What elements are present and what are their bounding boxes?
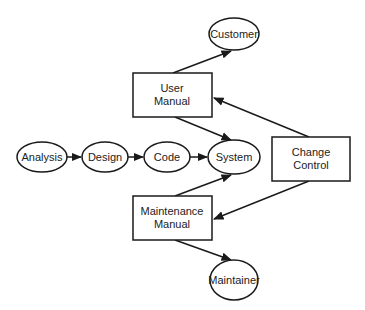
node-code: Code xyxy=(144,142,190,172)
user-manual-label-line2: Manual xyxy=(154,95,190,107)
code-label: Code xyxy=(154,151,180,163)
edge-maintenancemanual-system xyxy=(175,175,231,196)
maintenance-manual-label-line1: Maintenance xyxy=(141,205,204,217)
user-manual-label-line1: User xyxy=(160,82,184,94)
edge-changecontrol-maintenancemanual xyxy=(214,181,309,219)
change-control-label-line2: Control xyxy=(293,159,328,171)
node-maintainer: Maintainer xyxy=(208,260,260,300)
analysis-label: Analysis xyxy=(22,151,63,163)
edge-maintenancemanual-maintainer xyxy=(175,240,231,260)
node-analysis: Analysis xyxy=(17,142,67,172)
node-system: System xyxy=(208,140,260,174)
change-control-label-line1: Change xyxy=(292,146,331,158)
design-label: Design xyxy=(88,151,122,163)
edge-usermanual-customer xyxy=(173,51,231,73)
maintenance-manual-label-line2: Manual xyxy=(154,218,190,230)
node-maintenance-manual: Maintenance Manual xyxy=(133,196,212,240)
system-label: System xyxy=(216,151,253,163)
node-user-manual: User Manual xyxy=(133,73,212,117)
node-change-control: Change Control xyxy=(272,137,350,181)
customer-label: Customer xyxy=(210,28,258,40)
edge-usermanual-system xyxy=(175,117,231,140)
maintainer-label: Maintainer xyxy=(208,274,260,286)
node-design: Design xyxy=(82,142,128,172)
edge-changecontrol-usermanual xyxy=(214,98,309,137)
node-customer: Customer xyxy=(209,18,259,50)
software-process-diagram: Analysis Design Code System Customer Mai… xyxy=(0,0,365,310)
